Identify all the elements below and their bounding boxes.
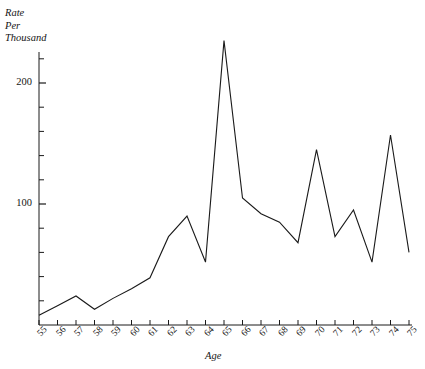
y-tick-label: 200 bbox=[2, 76, 32, 87]
data-series-line bbox=[39, 41, 409, 316]
plot-area bbox=[0, 0, 425, 369]
x-axis-ticks bbox=[39, 320, 409, 325]
axis-lines bbox=[39, 52, 412, 325]
y-axis-ticks bbox=[39, 59, 46, 301]
chart-figure: Rate Per Thousand Age 100200 55565758596… bbox=[0, 0, 425, 369]
y-tick-label: 100 bbox=[2, 197, 32, 208]
